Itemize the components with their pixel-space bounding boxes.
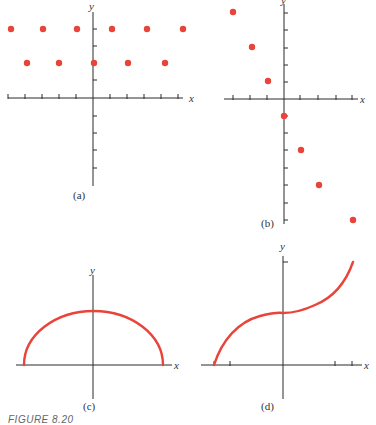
- panel-b: y x (b): [224, 0, 365, 230]
- y-axis-label: y: [88, 0, 94, 12]
- x-axis-label: x: [363, 359, 369, 371]
- y-axis-label: y: [280, 0, 286, 6]
- x-axis-label: x: [359, 93, 365, 105]
- figure-canvas: y (a): [0, 0, 376, 425]
- panel-label: (a): [73, 189, 86, 202]
- panel-d: y x (d): [201, 240, 369, 413]
- panel-c: y x (c): [16, 264, 179, 413]
- panel-label: (d): [261, 400, 274, 413]
- data-points: [230, 9, 356, 223]
- x-axis-label-a: x: [188, 92, 194, 104]
- y-axis-label: y: [89, 264, 95, 276]
- panel-label: (b): [261, 217, 274, 230]
- panel-a: y (a): [8, 0, 186, 202]
- figure-caption: FIGURE 8.20: [8, 414, 74, 425]
- panel-label: (c): [83, 400, 96, 413]
- y-axis-label: y: [279, 240, 285, 252]
- x-axis-label: x: [173, 359, 179, 371]
